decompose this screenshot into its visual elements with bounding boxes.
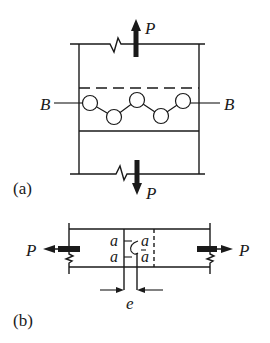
part-a: B B P P (a): [13, 19, 235, 203]
bolt-circle: [176, 94, 191, 109]
plane-label: a: [110, 232, 118, 249]
diagram-canvas: B B P P (a) a: [0, 0, 270, 343]
plane-label: a: [141, 232, 149, 249]
left-force-label: P: [25, 241, 36, 260]
right-b-label: B: [224, 95, 235, 114]
right-force-label: P: [238, 241, 249, 260]
eccentricity-label: e: [126, 294, 134, 313]
top-force-arrow-icon: [131, 19, 141, 57]
left-b-label: B: [40, 95, 51, 114]
bottom-force-label: P: [145, 184, 156, 203]
plane-label: a: [110, 248, 118, 265]
caption-a: (a): [13, 179, 32, 198]
bolt-circle: [107, 110, 122, 125]
part-b: a a a a P P e (b): [13, 223, 249, 330]
top-force-label: P: [144, 19, 155, 38]
right-force-arrow-icon: [197, 245, 233, 253]
left-force-arrow-icon: [43, 245, 80, 253]
bolt-circle: [130, 93, 145, 108]
caption-b: (b): [13, 311, 33, 330]
bolt-circle: [154, 109, 169, 124]
moment-icon: [131, 241, 138, 254]
bottom-force-arrow-icon: [132, 160, 142, 195]
dimension-arrow-icon: [137, 287, 163, 293]
dimension-arrow-icon: [100, 287, 124, 293]
bolt-circle: [83, 96, 98, 111]
plane-label: a: [141, 248, 149, 265]
